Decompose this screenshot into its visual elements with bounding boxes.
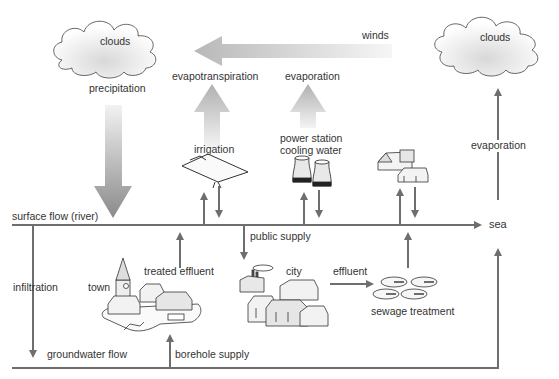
cloud-icon-left (54, 21, 156, 78)
evaporation-label-mid: evaporation (285, 71, 340, 83)
evaporation-label-right: evaporation (470, 140, 527, 152)
cooling-tower-icon (293, 156, 331, 186)
groundwater-flow-label: groundwater flow (47, 349, 127, 361)
infiltration-label: infiltration (13, 282, 58, 294)
sewage-tanks-icon (373, 277, 437, 299)
irrigation-label: irrigation (194, 144, 234, 156)
irrigated-field-icon (182, 154, 248, 188)
power-station-label-line2: cooling water (280, 145, 340, 157)
borehole-supply-label: borehole supply (175, 349, 249, 361)
winds-label: winds (362, 30, 389, 42)
water-cycle-diagram (0, 0, 559, 379)
power-station-label-line1: power station (280, 133, 340, 145)
effluent-label: effluent (333, 266, 367, 278)
evapotranspiration-arrow (194, 84, 230, 148)
clouds-right-label: clouds (480, 32, 510, 44)
city-icon (240, 265, 328, 326)
clouds-left-label: clouds (100, 36, 130, 48)
evaporation-arrow-power (290, 84, 326, 128)
evapotranspiration-label: evapotranspiration (172, 71, 258, 83)
cloud-icon-right (435, 17, 538, 76)
sea-label: sea (489, 218, 507, 230)
sewage-treatment-label: sewage treatment (371, 306, 454, 318)
precipitation-label: precipitation (89, 83, 146, 95)
power-station-label: power station cooling water (280, 133, 340, 156)
town-label: town (88, 282, 110, 294)
surface-flow-label: surface flow (river) (12, 211, 98, 223)
houses-icon (378, 150, 428, 182)
city-label: city (286, 266, 302, 278)
treated-effluent-label: treated effluent (144, 266, 214, 278)
precipitation-arrow (94, 105, 132, 218)
public-supply-label: public supply (250, 231, 311, 243)
